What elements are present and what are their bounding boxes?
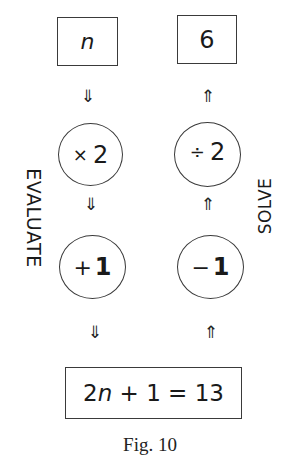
up-arrow-icon: ⇑ <box>201 196 215 213</box>
divide-step-circle: ÷ 2 <box>174 122 241 187</box>
divide-value: 2 <box>210 138 225 166</box>
down-arrow-icon: ⇓ <box>88 324 102 341</box>
variable-n: n <box>81 29 95 54</box>
input-variable-box: n <box>57 17 118 66</box>
equation-rest: + 1 = 13 <box>112 380 224 406</box>
subtract-step-circle: − 1 <box>177 235 244 299</box>
equation-coefficient: 2 <box>83 380 98 406</box>
multiply-step-circle: × 2 <box>58 123 123 186</box>
up-arrow-icon: ⇑ <box>204 324 218 341</box>
solution-value: 6 <box>199 26 214 54</box>
down-arrow-icon: ⇓ <box>81 88 95 105</box>
multiply-value: 2 <box>93 141 108 169</box>
solution-box: 6 <box>177 15 237 64</box>
add-value: 1 <box>95 253 112 281</box>
down-arrow-icon: ⇓ <box>84 196 98 213</box>
equation-box: 2n + 1 = 13 <box>65 367 242 419</box>
solve-label: SOLVE <box>255 176 275 236</box>
figure-caption: Fig. 10 <box>0 434 300 456</box>
subtract-operator: − <box>191 255 209 280</box>
subtract-value: 1 <box>213 253 230 281</box>
equation-variable: n <box>98 380 113 406</box>
add-step-circle: + 1 <box>59 235 126 299</box>
up-arrow-icon: ⇑ <box>201 88 215 105</box>
add-operator: + <box>73 255 91 280</box>
divide-operator: ÷ <box>190 141 205 162</box>
multiply-operator: × <box>73 144 88 165</box>
evaluate-label: EVALUATE <box>23 167 45 269</box>
